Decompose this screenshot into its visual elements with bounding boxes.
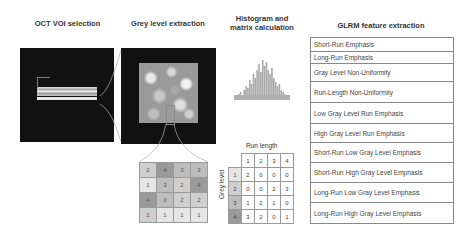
matrix-cell: 0	[255, 182, 268, 196]
matrix-cell: 2	[255, 210, 268, 224]
run-length-label: Run length	[246, 142, 277, 149]
glrm-feature-row: Run-Length Non-Uniformity	[311, 82, 453, 103]
run-length-matrix: 123412000200233121043201	[228, 153, 294, 224]
matrix-cell: 1	[242, 196, 255, 210]
grey-level-label: Grey level	[218, 170, 225, 199]
matrix-col-header: 3	[268, 154, 281, 168]
glrm-feature-row: Long-Run Emphasis	[311, 52, 453, 64]
matrix-cell: 2	[268, 182, 281, 196]
matrix-row: 31210	[229, 196, 294, 210]
matrix-cell: 0	[281, 168, 294, 182]
glrm-feature-row: Long-Run High Gray Level Emphasis	[311, 203, 453, 223]
matrix-cell: 0	[268, 168, 281, 182]
glrm-feature-row: Low Gray Level Run Emphasis	[311, 103, 453, 124]
matrix-cell: 2	[255, 196, 268, 210]
matrix-cell: 0	[281, 196, 294, 210]
matrix-cell: 0	[268, 210, 281, 224]
matrix-col-header: 4	[281, 154, 294, 168]
glrm-feature-table: Short-Run EmphasisLong-Run EmphasisGray …	[310, 37, 454, 224]
glrm-feature-row: High Gray Level Run Emphasis	[311, 124, 453, 143]
glrm-feature-row: Gray Level Non-Uniformity	[311, 64, 453, 82]
matrix-row: 43201	[229, 210, 294, 224]
matrix-cell: 1	[281, 210, 294, 224]
matrix-row: 20023	[229, 182, 294, 196]
glrm-feature-row: Long-Run Low Gray Level Emphasis	[311, 183, 453, 203]
matrix-cell: 3	[281, 182, 294, 196]
matrix-cell: 0	[242, 182, 255, 196]
matrix-cell: 1	[268, 196, 281, 210]
matrix-cell: 0	[255, 168, 268, 182]
matrix-row: 12000	[229, 168, 294, 182]
matrix-header-row: 1234	[229, 154, 294, 168]
matrix-row-label: 2	[229, 182, 242, 196]
glrm-feature-row: Short-Run Low Gray Level Emphasis	[311, 143, 453, 163]
matrix-cell: 2	[242, 168, 255, 182]
matrix-cell: 3	[242, 210, 255, 224]
matrix-row-label: 1	[229, 168, 242, 182]
matrix-row-label: 4	[229, 210, 242, 224]
matrix-col-header: 1	[242, 154, 255, 168]
matrix-col-header: 2	[255, 154, 268, 168]
matrix-row-label: 3	[229, 196, 242, 210]
glrm-feature-row: Short-Run Emphasis	[311, 38, 453, 52]
glrm-feature-row: Short-Run High Gray Level Emphasis	[311, 163, 453, 183]
